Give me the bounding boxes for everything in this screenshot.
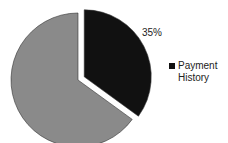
legend-swatch-payment-history — [169, 63, 175, 69]
slice-label-payment-history: 35% — [142, 27, 162, 38]
legend: Payment History — [169, 60, 222, 84]
pie-slices — [11, 10, 151, 143]
legend-label-payment-history: Payment History — [178, 60, 222, 84]
